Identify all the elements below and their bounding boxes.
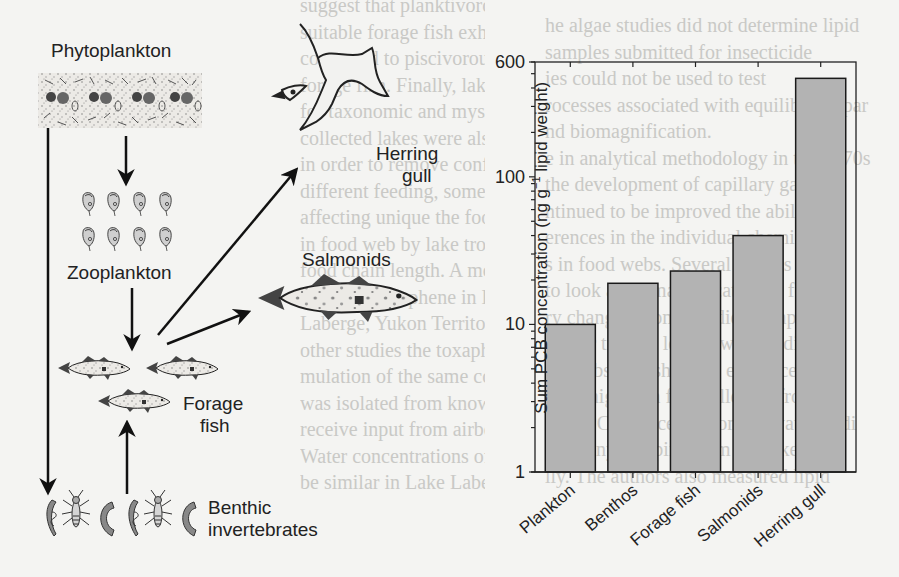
y-axis-label-exponent: −1: [530, 176, 542, 189]
y-tick-label: 600: [495, 52, 525, 72]
y-tick-label: 10: [505, 314, 525, 334]
x-tick-label: Plankton: [516, 481, 579, 538]
bar-salmonids: [733, 236, 783, 472]
y-axis-label-tail: lipid weight): [532, 82, 551, 177]
x-tick-label: Benthos: [581, 481, 641, 536]
y-axis-label-main: Sum PCB concentration (ng g: [532, 189, 551, 414]
bar-plankton: [545, 324, 595, 472]
bar-herring-gull: [796, 78, 846, 472]
bar-forage-fish: [670, 271, 720, 472]
bar-benthos: [608, 283, 658, 472]
y-tick-label: 100: [495, 167, 525, 187]
y-tick-label: 1: [515, 462, 525, 482]
y-axis-label: Sum PCB concentration (ng g−1 lipid weig…: [530, 124, 552, 414]
pcb-bar-chart: 110100600PlanktonBenthosForage fishSalmo…: [0, 0, 899, 577]
bar-chart-svg: 110100600PlanktonBenthosForage fishSalmo…: [0, 0, 899, 577]
x-tick-label: Forage fish: [627, 481, 704, 550]
